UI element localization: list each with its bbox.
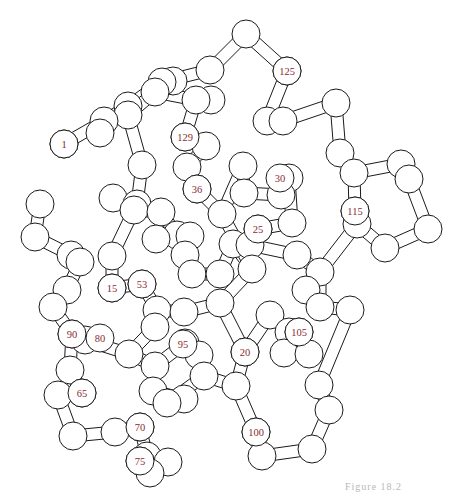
residue-label: 75: [135, 456, 146, 467]
atom-sphere: [371, 234, 399, 262]
atom-sphere: [305, 371, 333, 399]
atom-sphere: [206, 289, 234, 317]
residue-label: 25: [253, 224, 264, 235]
residue-label: 90: [67, 329, 78, 340]
atom-sphere: [21, 223, 49, 251]
residue-label: 95: [178, 339, 189, 350]
residue-label: 100: [248, 427, 264, 438]
atom-sphere: [26, 190, 54, 218]
atom-sphere: [115, 340, 143, 368]
atom-sphere: [120, 196, 148, 224]
atom-sphere: [196, 56, 224, 84]
residue-label: 125: [279, 66, 295, 77]
atom-sphere: [395, 165, 423, 193]
atom-sphere: [322, 89, 350, 117]
figure-caption: Figure 18.2: [345, 481, 402, 492]
atom-sphere: [153, 389, 181, 417]
atom-sphere: [141, 78, 169, 106]
atom-sphere: [340, 159, 368, 187]
atom-sphere: [336, 296, 364, 324]
atom-sphere: [59, 422, 87, 450]
atom-sphere: [190, 362, 218, 390]
atom-sphere: [229, 152, 257, 180]
atom-sphere: [39, 293, 67, 321]
atom-sphere: [238, 255, 266, 283]
atom-sphere: [86, 119, 114, 147]
atom-sphere: [278, 209, 306, 237]
residue-label: 105: [291, 327, 307, 338]
atom-sphere: [306, 293, 334, 321]
atom-sphere: [170, 298, 198, 326]
atom-sphere: [208, 200, 236, 228]
atom-sphere: [142, 225, 170, 253]
residue-label: 129: [177, 132, 193, 143]
atom-sphere: [182, 86, 210, 114]
atom-sphere: [283, 241, 311, 269]
residue-label: 70: [135, 422, 146, 433]
atom-sphere: [232, 20, 260, 48]
atom-sphere: [206, 260, 234, 288]
atom-sphere: [298, 435, 326, 463]
residue-label: 1: [61, 139, 66, 150]
residue-label: 115: [347, 206, 362, 217]
atom-sphere: [269, 107, 297, 135]
residue-label: 80: [95, 333, 106, 344]
residue-label: 20: [240, 347, 251, 358]
atom-sphere: [114, 101, 142, 129]
atom-sphere: [141, 313, 169, 341]
atom-sphere: [147, 198, 175, 226]
atom-sphere: [248, 442, 276, 470]
atom-sphere: [222, 372, 250, 400]
atom-sphere: [178, 260, 206, 288]
atom-sphere: [230, 179, 258, 207]
residue-label: 36: [192, 184, 203, 195]
atom-sphere: [128, 151, 156, 179]
residue-label: 15: [107, 283, 118, 294]
atom-sphere: [315, 396, 343, 424]
atom-layer: [21, 20, 442, 487]
atom-sphere: [141, 352, 169, 380]
atom-sphere: [98, 242, 126, 270]
atom-sphere: [414, 215, 442, 243]
atom-sphere: [66, 248, 94, 276]
residue-label: 30: [275, 173, 286, 184]
residue-label: 53: [137, 279, 148, 290]
residue-label: 65: [77, 388, 88, 399]
atom-sphere: [101, 418, 129, 446]
